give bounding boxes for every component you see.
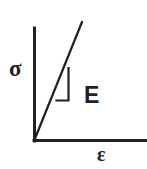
x-axis-label-epsilon: ε — [97, 144, 106, 164]
elastic-response-line — [34, 22, 82, 141]
y-axis-label-sigma: σ — [9, 57, 22, 80]
plot-canvas — [0, 0, 147, 169]
stress-strain-figure: σ ε E — [0, 0, 147, 169]
modulus-label-e: E — [84, 84, 99, 107]
